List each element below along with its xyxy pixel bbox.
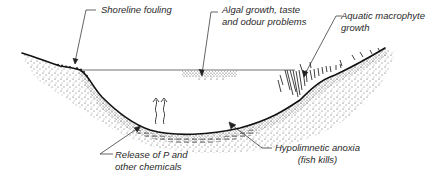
label-shoreline-fouling: Shoreline fouling — [101, 4, 172, 16]
nutrient-release-arrows — [153, 98, 167, 124]
label-algal-line-1: Algal growth, taste — [222, 4, 307, 16]
algal-bloom-lower — [195, 77, 227, 80]
label-hypolimnetic-anoxia: Hypolimnetic anoxia (fish kills) — [275, 142, 360, 166]
label-anoxia-line-1: Hypolimnetic anoxia — [275, 142, 360, 154]
label-shoreline-line-1: Shoreline fouling — [101, 4, 172, 16]
label-release-of-p: Release of P and other chemicals — [115, 149, 188, 173]
label-anoxia-line-2: (fish kills) — [275, 154, 360, 166]
label-macrophyte-line-2: growth — [341, 22, 425, 34]
label-macrophyte-line-1: Aquatic macrophyte — [341, 10, 425, 22]
label-release-line-1: Release of P and — [115, 149, 188, 161]
label-algal-growth: Algal growth, taste and odour problems — [222, 4, 307, 28]
label-aquatic-macrophyte: Aquatic macrophyte growth — [341, 10, 425, 34]
label-release-line-2: other chemicals — [115, 161, 188, 173]
label-algal-line-2: and odour problems — [222, 16, 307, 28]
algal-bloom-surface — [182, 71, 237, 77]
